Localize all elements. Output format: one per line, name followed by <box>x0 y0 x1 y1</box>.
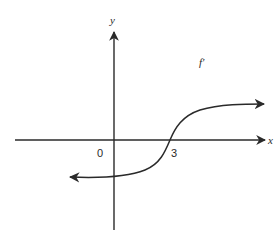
curve-label: f′ <box>199 56 205 68</box>
x-intercept-label: 3 <box>171 147 177 159</box>
f-prime-curve <box>70 104 264 177</box>
origin-label: 0 <box>97 147 103 159</box>
y-axis-label: y <box>109 14 115 26</box>
derivative-graph: y x f′ 0 3 <box>0 0 279 247</box>
x-axis-label: x <box>267 134 273 146</box>
